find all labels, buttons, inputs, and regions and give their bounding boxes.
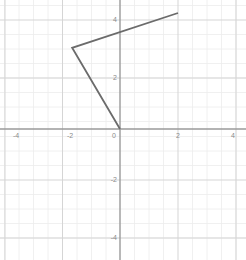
x-tick-label-pos4: 4 <box>231 132 235 139</box>
plot-canvas: -4 -2 0 2 4 4 2 -2 -4 <box>0 0 246 260</box>
y-tick-label-pos4: 4 <box>113 16 117 23</box>
x-tick-label-neg4: -4 <box>13 132 19 139</box>
coordinate-plane-graph: -4 -2 0 2 4 4 2 -2 -4 <box>0 0 246 260</box>
plot-background <box>0 0 246 260</box>
x-tick-label-neg2: -2 <box>67 132 73 139</box>
x-tick-label-zero: 0 <box>112 132 116 139</box>
x-tick-label-pos2: 2 <box>176 132 180 139</box>
y-tick-label-pos2: 2 <box>113 74 117 81</box>
y-tick-label-neg2: -2 <box>111 176 117 183</box>
y-tick-label-neg4: -4 <box>111 234 117 241</box>
